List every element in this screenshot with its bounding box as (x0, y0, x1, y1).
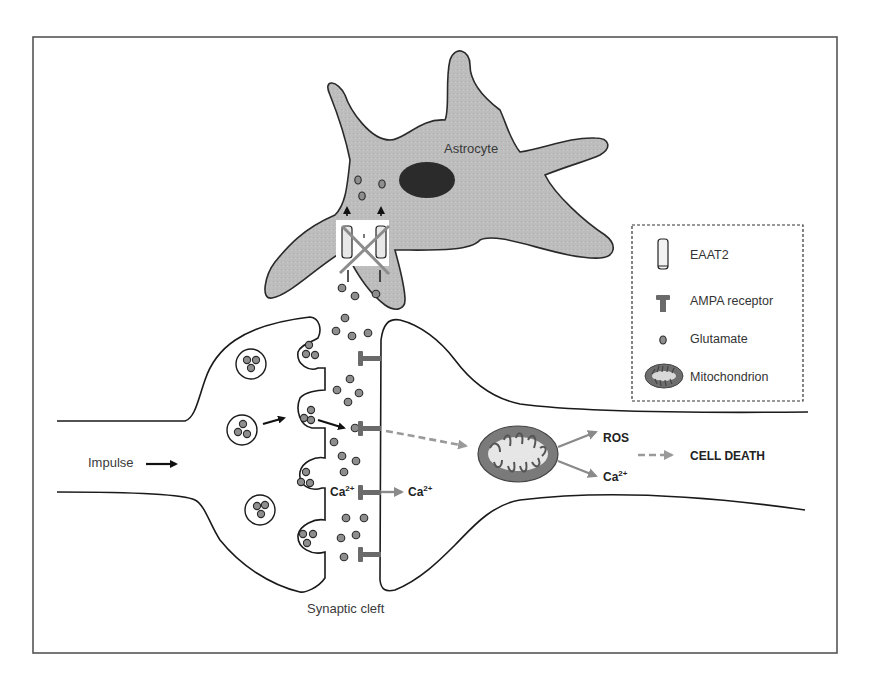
synaptic-cleft-label: Synaptic cleft (307, 601, 385, 616)
glutamate-icon (660, 336, 666, 344)
legend: EAAT2 AMPA receptor Glutamate Mitochondr… (632, 225, 803, 401)
synaptic-vesicle (236, 349, 266, 379)
legend-label: Mitochondrion (690, 370, 769, 384)
legend-label: EAAT2 (690, 248, 729, 262)
astrocyte-nucleus (399, 162, 455, 198)
legend-label: Glutamate (690, 332, 748, 346)
eaat2-transporter-icon (658, 239, 668, 269)
mitochondrion-icon (645, 364, 683, 388)
ros-label: ROS (603, 431, 629, 445)
impulse-label: Impulse (88, 455, 134, 470)
excitotoxicity-diagram: Astrocyte (0, 0, 871, 687)
mitochondrion (478, 426, 558, 482)
synaptic-vesicle (227, 415, 257, 445)
synaptic-vesicle (245, 495, 275, 525)
astrocyte-label: Astrocyte (444, 141, 498, 156)
legend-label: AMPA receptor (690, 294, 773, 308)
cell-death-label: CELL DEATH (690, 449, 765, 463)
